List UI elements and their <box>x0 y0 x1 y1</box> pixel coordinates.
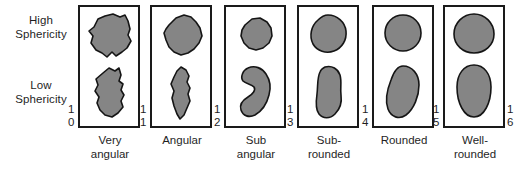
grain-shapes-angular <box>150 5 212 128</box>
caption-line1: Angular <box>142 133 222 147</box>
grain-sub-rounded-low <box>316 66 341 117</box>
caption-line2: rounded <box>435 147 515 161</box>
grain-well-rounded-high <box>454 14 494 53</box>
grain-sub-angular-high <box>241 18 272 50</box>
column-rounded: 1 4 Rounded <box>362 0 442 173</box>
grain-very-angular-high <box>89 14 131 57</box>
column-well-rounded: 1 5 Well- rounded <box>433 0 513 173</box>
caption-rounded: Rounded <box>364 133 444 147</box>
low-sphericity-label: Low Sphericity <box>6 79 76 106</box>
grain-angular-high <box>164 15 202 55</box>
caption-well-rounded: Well- rounded <box>435 133 515 161</box>
caption-sub-angular: Sub angular <box>216 133 296 161</box>
column-sub-angular: 1 2 Sub angular <box>214 0 294 173</box>
low-sphericity-line1: Low <box>6 79 76 93</box>
grain-sub-rounded-high <box>311 15 346 52</box>
grain-shapes-sub-angular <box>224 5 286 128</box>
caption-line1: Well- <box>435 133 515 147</box>
grain-very-angular-low <box>95 68 124 117</box>
index-top: 1 <box>507 103 518 116</box>
caption-line1: Rounded <box>364 133 444 147</box>
grain-well-rounded-low <box>457 65 491 117</box>
grain-shapes-rounded <box>372 5 434 128</box>
high-sphericity-label: High Sphericity <box>6 14 76 41</box>
caption-very-angular: Very angular <box>70 133 150 161</box>
caption-line2: angular <box>216 147 296 161</box>
high-sphericity-line1: High <box>6 14 76 28</box>
column-sub-rounded: 1 3 Sub- rounded <box>287 0 367 173</box>
caption-line1: Very <box>70 133 150 147</box>
grain-shapes-well-rounded <box>443 5 505 128</box>
index-bottom: 6 <box>507 116 518 129</box>
low-sphericity-line2: Sphericity <box>6 93 76 107</box>
grain-shapes-sub-rounded <box>297 5 359 128</box>
caption-line2: rounded <box>289 147 369 161</box>
caption-line1: Sub- <box>289 133 369 147</box>
caption-angular: Angular <box>142 133 222 147</box>
column-angular: 1 1 Angular <box>140 0 220 173</box>
grain-sub-angular-low <box>240 67 270 117</box>
column-very-angular: 1 0 Very angular <box>68 0 148 173</box>
caption-line2: angular <box>70 147 150 161</box>
index-trailing: 1 6 <box>507 103 518 128</box>
high-sphericity-line2: Sphericity <box>6 28 76 42</box>
caption-line1: Sub <box>216 133 296 147</box>
grain-angular-low <box>171 67 190 119</box>
grain-rounded-low <box>387 66 419 117</box>
grain-shapes-very-angular <box>78 5 140 128</box>
grain-rounded-high <box>385 15 421 51</box>
caption-sub-rounded: Sub- rounded <box>289 133 369 161</box>
grain-roundness-sphericity-figure: High Sphericity Low Sphericity 1 0 Very … <box>0 0 529 173</box>
